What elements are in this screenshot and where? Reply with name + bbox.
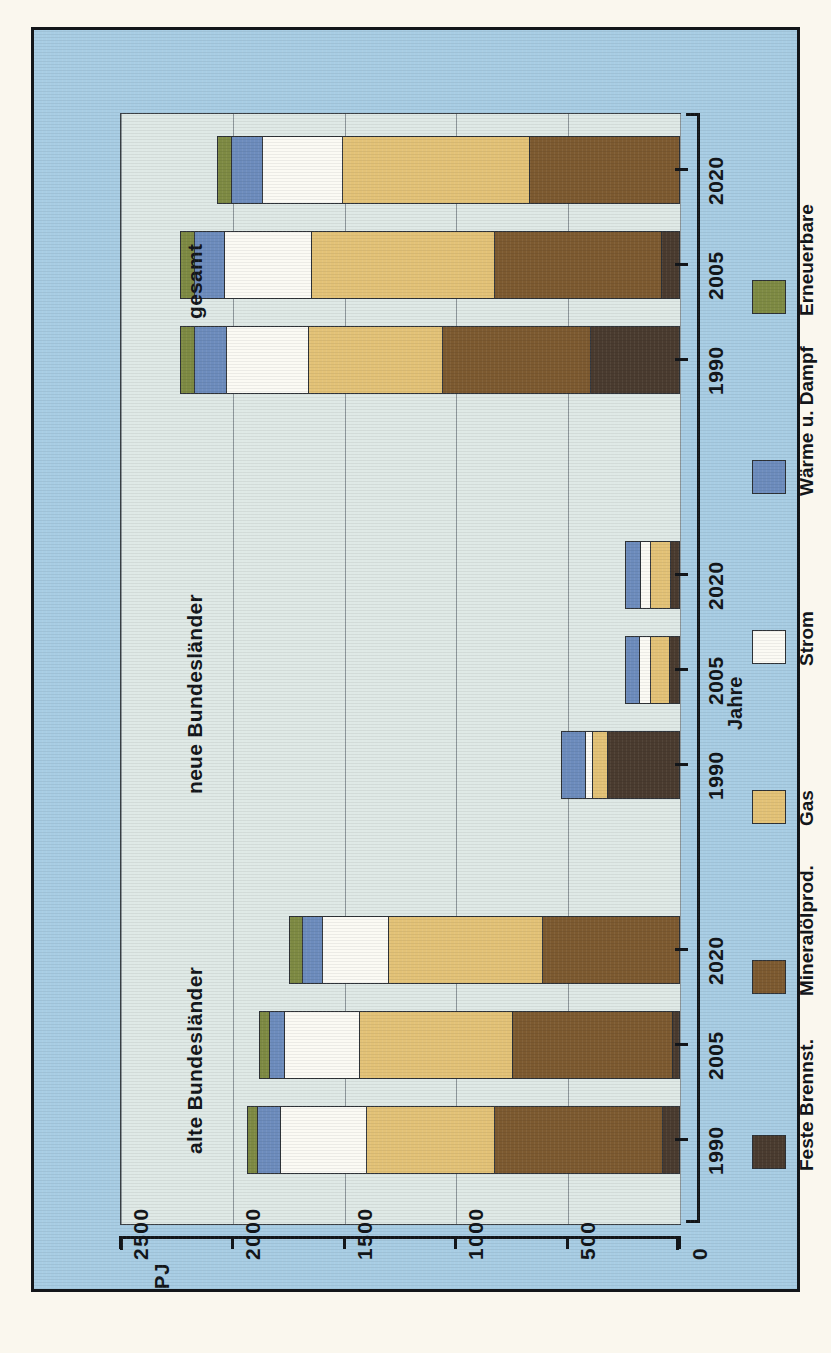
bar-segment-gas [651,542,671,608]
bar-segment-strom [285,1012,360,1078]
bar-segment-strom [281,1107,368,1173]
category-tick-label-1990: 1990 [704,751,728,800]
group-label-alte-bundeslaender: alte Bundesländer [183,967,207,1154]
legend-swatch [752,790,786,824]
legend-label: Wärme u. Dampf [796,346,818,496]
category-tick-2020 [675,168,688,171]
category-tick-1990 [675,763,688,766]
bar-segment-w-rme-u-dampf [303,917,323,983]
legend-swatch [752,1135,786,1169]
bar-segment-w-rme-u-dampf [270,1012,286,1078]
bar-segment-mineralölprod- [513,1012,673,1078]
value-tick-500 [566,1236,569,1249]
category-tick-2020 [675,948,688,951]
category-tick-2005 [675,263,688,266]
legend-label: Mineralölprod. [796,865,818,996]
paper-background: alte Bundesländer neue Bundesländer gesa… [0,0,831,1353]
value-tick-2500 [119,1236,122,1249]
chart-plate: alte Bundesländer neue Bundesländer gesa… [31,27,800,1292]
bar-segment-erneuerbare [218,137,231,203]
value-tick-0 [678,1236,681,1249]
bar-segment-w-rme-u-dampf [626,637,640,703]
bar-alte-bundesländer-1990 [247,1106,680,1174]
bar-segment-w-rme-u-dampf [258,1107,280,1173]
value-tick-label-1000: 1000 [464,1207,488,1260]
category-tick-2005 [675,1043,688,1046]
bar-segment-strom [323,917,389,983]
bar-segment-w-rme-u-dampf [562,732,585,798]
bar-segment-w-rme-u-dampf [626,542,641,608]
bar-segment-erneuerbare [260,1012,270,1078]
bar-segment-gas [651,637,670,703]
bar-segment-mineralölprod- [495,1107,663,1173]
bar-neue-bundesländer-2020 [625,541,680,609]
category-tick-label-2005: 2005 [704,251,728,300]
value-tick-label-500: 500 [576,1220,600,1260]
value-tick-1500 [343,1236,346,1249]
bar-segment-strom [640,637,651,703]
bar-segment-strom [586,732,594,798]
gridline-2500 [121,114,122,1224]
legend-label: Gas [796,790,818,826]
bar-segment-strom [263,137,343,203]
group-label-neue-bundeslaender: neue Bundesländer [183,594,207,794]
group-label-gesamt: gesamt [183,244,207,319]
value-tick-label-1500: 1500 [353,1207,377,1260]
bar-segment-gas [312,232,496,298]
bar-segment-mineralölprod- [530,137,679,203]
category-tick-label-2020: 2020 [704,561,728,610]
bar-segment-gas [360,1012,514,1078]
legend-label: Erneuerbare [796,204,818,316]
bar-gesamt-2020 [217,136,680,204]
category-tick-label-2020: 2020 [704,936,728,985]
bar-segment-gas [309,327,443,393]
legend-swatch [752,460,786,494]
legend-swatch [752,960,786,994]
legend-swatch [752,280,786,314]
bar-segment-feste-brennst- [608,732,679,798]
bar-alte-bundesländer-2005 [259,1011,680,1079]
value-tick-1000 [454,1236,457,1249]
plot-area: alte Bundesländer neue Bundesländer gesa… [120,113,681,1225]
value-tick-label-2500: 2500 [129,1207,153,1260]
bar-segment-strom [641,542,651,608]
legend: Feste Brennst.Mineralölprod.GasStromWärm… [734,30,831,1295]
bar-segment-w-rme-u-dampf [232,137,263,203]
bar-segment-strom [227,327,309,393]
bar-segment-erneuerbare [181,327,194,393]
bar-segment-erneuerbare [290,917,303,983]
value-tick-label-2000: 2000 [241,1207,265,1260]
value-tick-label-0: 0 [688,1247,712,1260]
category-tick-1990 [675,1138,688,1141]
category-tick-label-2005: 2005 [704,1031,728,1080]
value-tick-2000 [231,1236,234,1249]
bar-neue-bundesländer-2005 [625,636,680,704]
legend-label: Strom [796,611,818,666]
bar-segment-mineralölprod- [543,917,679,983]
category-tick-2005 [675,668,688,671]
bar-gesamt-2005 [180,231,680,299]
bar-gesamt-1990 [180,326,680,394]
bar-alte-bundesländer-2020 [289,916,680,984]
bar-segment-gas [343,137,530,203]
bar-segment-erneuerbare [248,1107,258,1173]
bar-segment-gas [389,917,544,983]
bar-segment-strom [225,232,312,298]
bar-segment-w-rme-u-dampf [195,327,227,393]
legend-label: Feste Brennst. [796,1039,818,1171]
category-tick-label-2005: 2005 [704,656,728,705]
bar-neue-bundesländer-1990 [561,731,680,799]
category-tick-label-1990: 1990 [704,346,728,395]
category-axis [686,113,700,1223]
bar-segment-mineralölprod- [495,232,662,298]
bar-segment-gas [367,1107,495,1173]
category-tick-1990 [675,358,688,361]
category-tick-2020 [675,573,688,576]
bar-segment-gas [593,732,607,798]
category-tick-label-2020: 2020 [704,156,728,205]
category-tick-label-1990: 1990 [704,1126,728,1175]
bar-segment-mineralölprod- [443,327,591,393]
value-axis-title: PJ [151,1263,174,1289]
bar-segment-feste-brennst- [591,327,679,393]
legend-swatch [752,630,786,664]
